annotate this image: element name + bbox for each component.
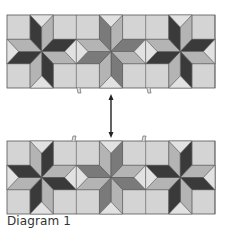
- seam-tab-mark: [77, 88, 81, 93]
- seam-tab-mark: [147, 88, 151, 93]
- diagram-caption: Diagram 1: [7, 214, 71, 228]
- quilt-strip-top-strip: [7, 15, 215, 93]
- double-arrow-icon: [109, 94, 114, 138]
- seam-tab-mark: [142, 136, 146, 141]
- quilt-strip-bottom-strip: [7, 136, 215, 214]
- quilt-diagram: [0, 0, 225, 234]
- seam-tab-mark: [72, 136, 76, 141]
